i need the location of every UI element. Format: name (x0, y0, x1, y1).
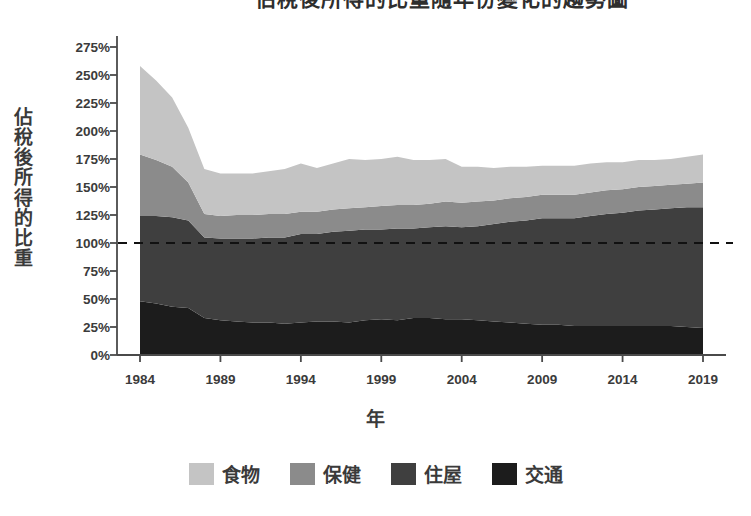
chart-container: 佔稅後所得的比重 0%25%50%75%100%125%150%175%200%… (0, 0, 751, 516)
legend-swatch-icon (290, 463, 315, 485)
legend-item-food[interactable]: 食物 (189, 460, 260, 487)
stacked-area-chart (0, 0, 751, 516)
legend-swatch-icon (391, 463, 416, 485)
legend-item-housing[interactable]: 住屋 (391, 460, 462, 487)
x-axis-title: 年 (0, 404, 751, 431)
legend-label: 食物 (222, 460, 260, 487)
legend-item-transport[interactable]: 交通 (492, 460, 563, 487)
legend-label: 住屋 (424, 460, 462, 487)
legend-item-healthcare[interactable]: 保健 (290, 460, 361, 487)
legend-label: 交通 (525, 460, 563, 487)
chart-legend: 食物保健住屋交通 (0, 460, 751, 487)
legend-swatch-icon (492, 463, 517, 485)
legend-label: 保健 (323, 460, 361, 487)
legend-swatch-icon (189, 463, 214, 485)
